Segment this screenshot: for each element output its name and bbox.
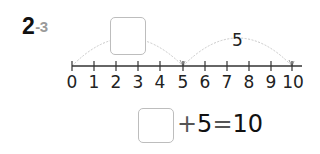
tick-label-1: 1 (89, 72, 100, 92)
tick-label-9: 9 (266, 72, 277, 92)
tick-label-6: 6 (200, 72, 211, 92)
tick-label-8: 8 (244, 72, 255, 92)
equals-sign: = (212, 110, 232, 138)
addend: 5 (197, 110, 212, 138)
equation-answer-box[interactable] (138, 108, 174, 143)
tick-label-0: 0 (67, 72, 78, 92)
plus-sign: + (177, 110, 197, 138)
tick-label-10: 10 (282, 72, 304, 92)
tick-label-3: 3 (133, 72, 144, 92)
jump-label: 5 (232, 30, 243, 50)
jump-answer-box[interactable] (110, 17, 146, 55)
equation: + 5 = 10 (177, 110, 263, 138)
tick-label-7: 7 (222, 72, 233, 92)
tick-label-5: 5 (178, 72, 189, 92)
tick-label-4: 4 (155, 72, 166, 92)
tick-label-2: 2 (111, 72, 122, 92)
result: 10 (233, 110, 264, 138)
